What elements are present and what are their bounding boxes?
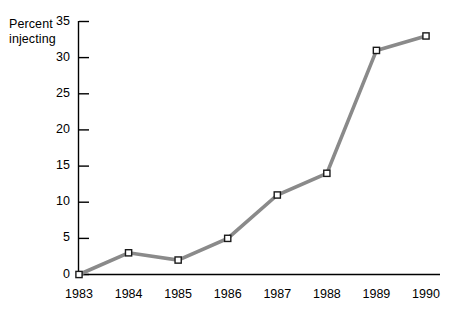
x-tick-label-1989: 1989	[353, 288, 399, 301]
x-tick-label-1988: 1988	[304, 288, 350, 301]
y-tick-label-30: 30	[46, 51, 70, 64]
y-tick-label-35: 35	[46, 15, 70, 28]
chart-screenshot: Percent injecting 05101520253035 1983198…	[0, 0, 472, 315]
chart-plot-area	[0, 0, 472, 315]
data-point-1986	[225, 235, 231, 241]
data-point-markers	[76, 33, 429, 278]
y-tick-label-25: 25	[46, 87, 70, 100]
data-point-1990	[423, 33, 429, 39]
data-point-1987	[274, 192, 280, 198]
data-point-1988	[324, 170, 330, 176]
y-tick-label-20: 20	[46, 123, 70, 136]
x-tick-label-1990: 1990	[403, 288, 449, 301]
x-tick-label-1983: 1983	[56, 288, 102, 301]
data-point-1985	[175, 257, 181, 263]
y-tick-label-10: 10	[46, 195, 70, 208]
x-tick-label-1985: 1985	[155, 288, 201, 301]
data-series-line	[79, 36, 426, 275]
data-point-1989	[373, 47, 379, 53]
data-point-1984	[125, 250, 131, 256]
y-axis-ticks	[79, 22, 89, 275]
line-chart-figure: Percent injecting 05101520253035 1983198…	[0, 0, 472, 315]
y-tick-label-15: 15	[46, 159, 70, 172]
x-tick-label-1987: 1987	[254, 288, 300, 301]
data-point-1983	[76, 271, 82, 277]
y-axis-title-line-2: injecting	[9, 32, 56, 47]
x-tick-label-1986: 1986	[205, 288, 251, 301]
x-tick-label-1984: 1984	[106, 288, 152, 301]
y-tick-label-5: 5	[46, 231, 70, 244]
y-tick-label-0: 0	[46, 268, 70, 281]
